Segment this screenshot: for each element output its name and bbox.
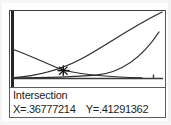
scan-edge-top xyxy=(0,0,171,3)
intersection-cursor-icon xyxy=(58,65,70,75)
scan-edge-right xyxy=(168,0,171,125)
result-title: Intersection xyxy=(13,89,67,102)
plot-curve-1 xyxy=(12,12,162,78)
result-x-value: X=.36777214 xyxy=(13,103,75,115)
plot-canvas xyxy=(10,11,165,87)
graph-viewport[interactable] xyxy=(9,10,166,88)
plot-curve-3 xyxy=(12,49,142,78)
scan-edge-bottom xyxy=(0,121,171,125)
calculator-screen: Intersection X=.36777214 Y=.41291362 xyxy=(0,0,171,125)
result-coordinates: X=.36777214 Y=.41291362 xyxy=(13,103,148,116)
scan-edge-left xyxy=(0,0,2,125)
result-y-value: Y=.41291362 xyxy=(86,103,148,115)
result-readout-box: Intersection X=.36777214 Y=.41291362 xyxy=(9,87,166,118)
plot-curve-2 xyxy=(12,32,159,78)
